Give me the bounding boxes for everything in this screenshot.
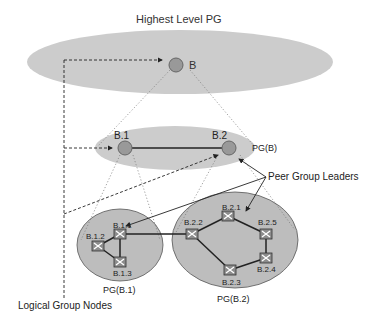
label-node-b23: B.2.3 [222,279,241,287]
switch-icon-b24 [260,253,272,263]
switch-icon-b21 [222,211,234,221]
switch-icon-b22 [186,229,198,239]
label-node-b1: B.1 [114,131,129,141]
label-node-b21: B.2.1 [222,204,241,212]
switch-icon-b11 [114,229,126,239]
label-peer-group-leaders: Peer Group Leaders [268,172,359,182]
label-node-b2: B.2 [212,131,227,141]
node-b1 [118,141,132,155]
label-pg-b1: PG(B.1) [103,286,136,295]
label-pg-b: PG(B) [252,144,277,153]
label-pg-b2: PG(B.2) [217,295,250,304]
label-node-b22: B.2.2 [184,219,203,227]
label-node-b24: B.2.4 [257,266,276,274]
switch-icon-b12 [92,241,104,251]
switch-icon-b13 [114,257,126,267]
label-node-b13: B.1.3 [113,270,132,278]
title-highest-level-pg: Highest Level PG [136,14,222,25]
label-node-b11: B.1.1 [113,222,132,230]
pnni-hierarchy-diagram: Highest Level PG B B.1 B.2 PG(B) Peer Gr… [0,0,384,326]
switch-icon-b25 [260,229,272,239]
label-node-b: B [189,60,196,71]
label-logical-group-nodes: Logical Group Nodes [18,301,112,311]
label-node-b12: B.1.2 [86,233,105,241]
node-b [169,58,183,72]
switch-icon-b23 [224,265,236,275]
label-node-b25: B.2.5 [258,219,277,227]
node-b2 [222,141,236,155]
